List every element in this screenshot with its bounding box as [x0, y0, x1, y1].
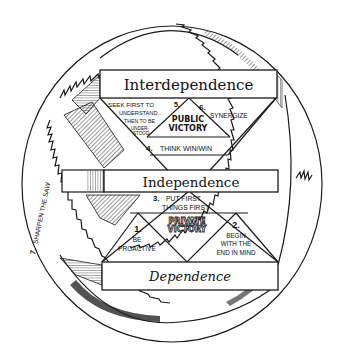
- habit-3-line-2: THINGS FIRST: [162, 204, 209, 211]
- public-victory: PUBLIC VICTORY: [169, 115, 208, 133]
- habit-4-label: THINK WIN/WIN: [160, 145, 212, 152]
- habit-5-line-1: SEEK FIRST TO: [108, 101, 154, 108]
- dependence-level: Dependence: [102, 262, 278, 290]
- habit-5-line-2: UNDERSTAND…: [119, 110, 163, 116]
- habit-3-line-1: PUT FIRST: [166, 195, 201, 202]
- interdependence-label: Interdependence: [124, 76, 254, 94]
- habit-1-line-2: PROACTIVE: [118, 245, 156, 252]
- habit-1-number: 1.: [134, 224, 142, 234]
- public-victory-line-2: VICTORY: [169, 124, 208, 133]
- habit-7: 7. SHARPEN THE SAW: [28, 181, 52, 256]
- habit-6: 6. SYNERGIZE: [199, 103, 248, 119]
- habit-5-line-3: THEN TO BE: [124, 118, 155, 124]
- habit-2-line-2: WITH THE: [221, 240, 251, 247]
- private-victory: PRIVATE VICTORY: [168, 217, 207, 234]
- habit-5-line-4: UNDER-: [131, 126, 149, 131]
- habit-2-number: 2.: [232, 220, 240, 230]
- independence-label: Independence: [143, 174, 240, 190]
- habit-5-number: 5.: [174, 101, 180, 108]
- habit-4-number: 4.: [146, 144, 153, 153]
- habit-4: 4. THINK WIN/WIN: [146, 144, 212, 153]
- dependence-label: Dependence: [148, 269, 231, 284]
- habit-7-number: 7.: [28, 247, 38, 255]
- habit-6-label: SYNERGIZE: [210, 112, 248, 119]
- private-victory-line-2: VICTORY: [168, 225, 207, 234]
- habit-7-label: SHARPEN THE SAW: [31, 181, 51, 244]
- habit-2-line-3: END IN MIND: [216, 249, 256, 256]
- habit-3: 3. PUT FIRST THINGS FIRST: [153, 194, 209, 211]
- habit-2: 2. BEGIN WITH THE END IN MIND: [216, 220, 256, 256]
- interdependence-level: Interdependence: [100, 70, 277, 98]
- habit-6-number: 6.: [199, 103, 206, 112]
- habit-1: 1. BE PROACTIVE: [118, 224, 156, 252]
- public-victory-line-1: PUBLIC: [172, 115, 205, 124]
- habit-1-line-1: BE: [133, 236, 142, 243]
- seven-habits-diagram: Interdependence Independence Dependence …: [0, 0, 340, 355]
- independence-level: Independence: [62, 170, 278, 192]
- habit-2-line-1: BEGIN: [226, 232, 246, 239]
- habit-3-number: 3.: [153, 194, 159, 203]
- habit-5-line-5: STOOD: [133, 131, 150, 136]
